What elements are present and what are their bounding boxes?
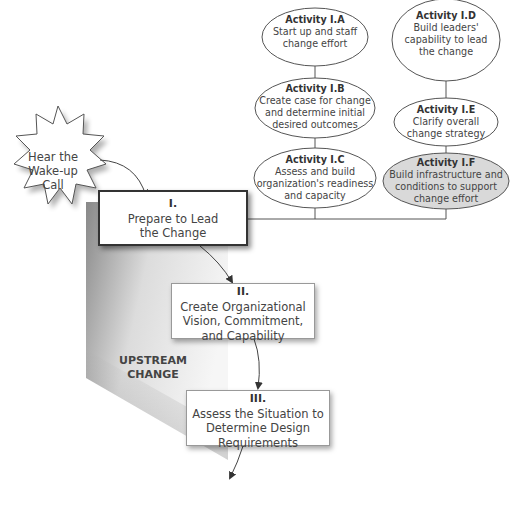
activity-ia-line1: Start up and staff [273, 26, 357, 37]
activity-id-line3: the change [419, 46, 473, 57]
activity-id: Activity I.D Build leaders' capability t… [392, 10, 500, 58]
phase-2-box: II. Create Organizational Vision, Commit… [171, 283, 315, 339]
activity-id-title: Activity I.D [392, 10, 500, 22]
arrow-phase-2-to-3 [254, 339, 259, 388]
wake-up-line-1: Hear the [28, 150, 78, 164]
phase-1-box: I. Prepare to Lead the Change [98, 190, 248, 246]
activity-if-line1: Build infrastructure and [389, 169, 503, 180]
wake-up-line-2: Wake-up [28, 164, 78, 178]
upstream-label-line1: UPSTREAM [119, 354, 187, 367]
wake-up-call-label: Hear the Wake-up Call [18, 150, 88, 192]
phase-2-line1: Create Organizational [180, 300, 306, 314]
activity-if: Activity I.F Build infrastructure and co… [383, 157, 509, 205]
activity-if-line2: conditions to support [395, 181, 497, 192]
phase-2-number: II. [172, 285, 314, 300]
phase-3-number: III. [187, 392, 329, 407]
activity-id-line1: Build leaders' [413, 22, 478, 33]
phase-2-line3: and Capability [202, 329, 285, 343]
wake-up-line-3: Call [42, 178, 63, 192]
phase-1-number: I. [100, 197, 246, 212]
phase-1-line2: the Change [140, 226, 207, 240]
activity-ib: Activity I.B Create case for change and … [255, 83, 375, 131]
activity-id-line2: capability to lead [405, 34, 488, 45]
arrow-phase-3-onward [230, 446, 243, 478]
activity-ie-line1: Clarify overall [413, 116, 479, 127]
activity-if-title: Activity I.F [383, 157, 509, 169]
phase-3-line3: Requirements [218, 436, 298, 450]
phase-2-line2: Vision, Commitment, [183, 314, 304, 328]
activity-ic-line2: organization's readiness [257, 178, 374, 189]
activity-ib-line2: and determine initial [265, 107, 365, 118]
activity-ib-title: Activity I.B [255, 83, 375, 95]
activity-if-line3: change effort [414, 193, 478, 204]
activity-ie-title: Activity I.E [394, 104, 498, 116]
activity-ib-line1: Create case for change [259, 95, 371, 106]
activity-ic-title: Activity I.C [254, 154, 376, 166]
activity-ie: Activity I.E Clarify overall change stra… [394, 104, 498, 140]
phase-3-line1: Assess the Situation to [192, 407, 324, 421]
activity-ia-title: Activity I.A [262, 14, 368, 26]
phase-1-line1: Prepare to Lead [128, 212, 219, 226]
phase-3-line2: Determine Design [206, 421, 310, 435]
activity-ic-line1: Assess and build [275, 166, 355, 177]
phase-3-box: III. Assess the Situation to Determine D… [186, 390, 330, 446]
activity-ia: Activity I.A Start up and staff change e… [262, 14, 368, 50]
upstream-change-label: UPSTREAM CHANGE [108, 354, 198, 382]
activity-ib-line3: desired outcomes [272, 119, 358, 130]
activity-ic: Activity I.C Assess and build organizati… [254, 154, 376, 202]
activity-ia-line2: change effort [283, 38, 347, 49]
activity-ic-line3: and capacity [284, 190, 346, 201]
upstream-label-line2: CHANGE [127, 368, 179, 381]
activity-ie-line2: change strategy [407, 128, 485, 139]
